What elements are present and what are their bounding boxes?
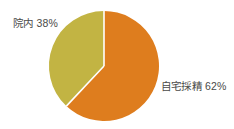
pie-chart-figure: 院内 38% 自宅採精 62% xyxy=(0,0,234,129)
pie-label-in-hospital: 院内 38% xyxy=(13,17,58,30)
pie-label-home-collection: 自宅採精 62% xyxy=(161,80,227,93)
